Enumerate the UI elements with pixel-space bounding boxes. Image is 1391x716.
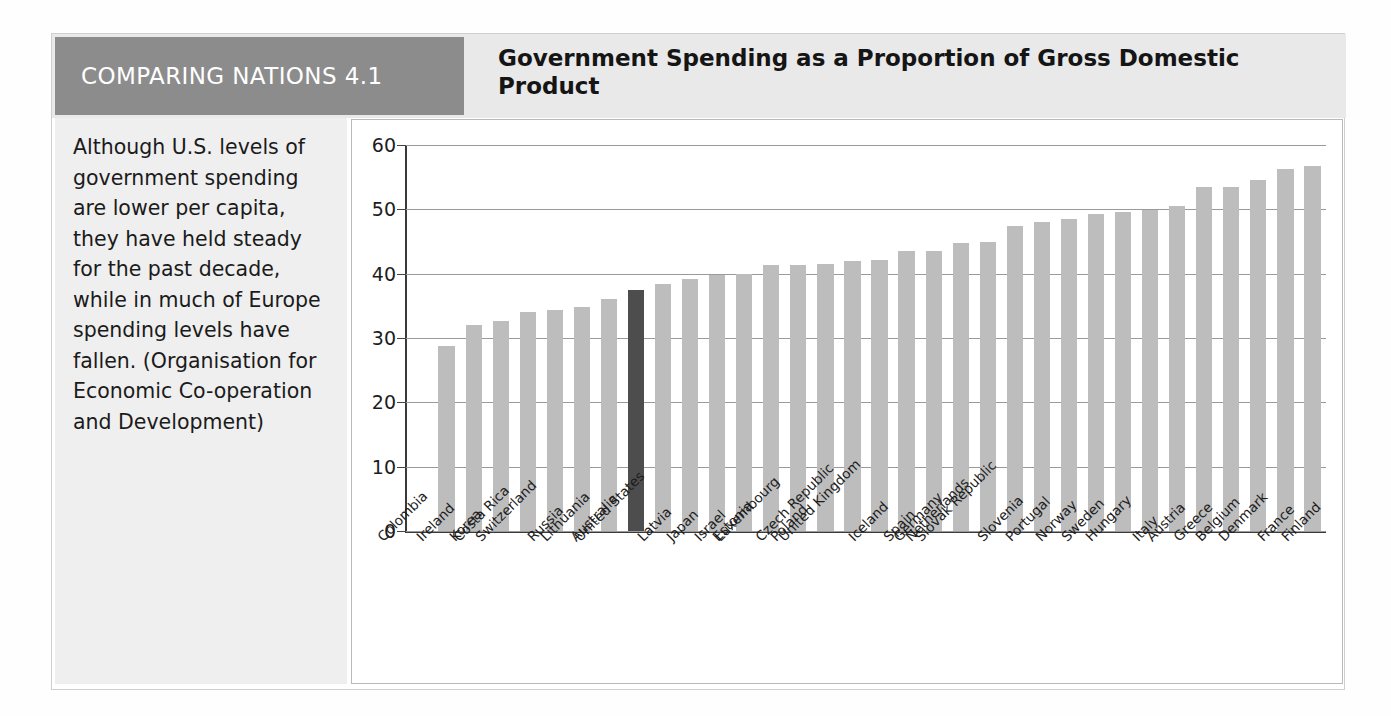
bar-russia (547, 310, 563, 531)
gridline-60 (406, 145, 1326, 146)
x-axis-labels: ColombiaIrelandKoreaCosta RicaSwitzerlan… (406, 531, 1336, 681)
bar-hungary (1115, 212, 1131, 531)
gridline-50 (406, 209, 1326, 210)
bar-austria (1169, 206, 1185, 531)
bar-slovenia (1007, 226, 1023, 531)
y-tick-40 (397, 274, 406, 275)
figure-tag-label: COMPARING NATIONS 4.1 (55, 37, 464, 115)
bar-spain (898, 251, 914, 531)
y-tick-30 (397, 338, 406, 339)
bar-israel (709, 275, 725, 531)
bar-sweden (1088, 214, 1104, 531)
y-tick-label: 20 (354, 391, 396, 413)
y-tick-label: 10 (354, 456, 396, 478)
bar-korea (466, 325, 482, 532)
bar-portugal (1034, 222, 1050, 531)
gridline-30 (406, 338, 1326, 339)
bar-finland (1304, 166, 1320, 531)
bar-latvia (655, 284, 671, 531)
bar-greece (1196, 187, 1212, 531)
bar-italy (1142, 210, 1158, 531)
figure-header: COMPARING NATIONS 4.1 Government Spendin… (52, 34, 1346, 118)
figure-panel: COMPARING NATIONS 4.1 Government Spendin… (51, 33, 1345, 690)
chart-container: 0102030405060 ColombiaIrelandKoreaCosta … (351, 119, 1343, 684)
gridline-10 (406, 467, 1326, 468)
page-root: COMPARING NATIONS 4.1 Government Spendin… (0, 0, 1391, 716)
bar-united-kingdom (844, 261, 860, 531)
bar-norway (1061, 219, 1077, 531)
y-tick-60 (397, 145, 406, 146)
y-tick-label: 30 (354, 327, 396, 349)
figure-body: Although U.S. levels of government spend… (52, 118, 1346, 691)
gridline-20 (406, 402, 1326, 403)
y-tick-label: 40 (354, 263, 396, 285)
caption-text: Although U.S. levels of government spend… (73, 132, 331, 437)
gridline-40 (406, 274, 1326, 275)
chart-plot-area: 0102030405060 (406, 145, 1326, 531)
bar-france (1277, 169, 1293, 531)
y-tick-50 (397, 209, 406, 210)
y-tick-20 (397, 402, 406, 403)
y-tick-label: 50 (354, 198, 396, 220)
figure-title: Government Spending as a Proportion of G… (498, 44, 1328, 100)
bar-belgium (1223, 187, 1239, 531)
y-tick-10 (397, 467, 406, 468)
bar-iceland (871, 260, 887, 531)
bar-slovak-republic (980, 242, 996, 532)
y-tick-label: 60 (354, 134, 396, 156)
bar-denmark (1250, 180, 1266, 531)
figure-caption-sidebar: Although U.S. levels of government spend… (55, 118, 347, 684)
bar-japan (682, 279, 698, 531)
